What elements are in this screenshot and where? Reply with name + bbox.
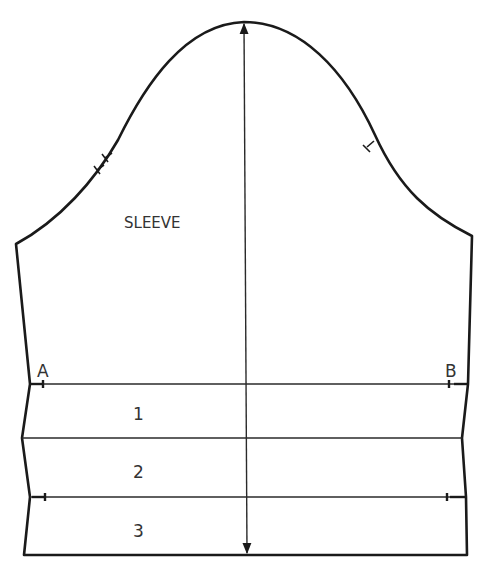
- band-label-1: 1: [133, 404, 144, 424]
- band-label-3: 3: [133, 521, 144, 541]
- front-notch-single: [363, 141, 374, 152]
- band-label-2: 2: [133, 462, 144, 482]
- point-b-label: B: [445, 361, 457, 381]
- point-a-label: A: [37, 361, 49, 381]
- sleeve-label: SLEEVE: [124, 214, 181, 232]
- sleeve-pattern-diagram: SLEEVE A B 1 2 3: [0, 0, 485, 572]
- grainline-arrow: [244, 24, 247, 553]
